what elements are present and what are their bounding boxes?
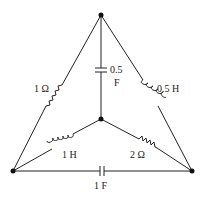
label-capacitor-0.5F-value: 0.5 bbox=[110, 64, 123, 75]
circuit-diagram: 1 Ω 0.5 F 0.5 H 1 H 2 Ω 1 F bbox=[0, 0, 203, 198]
label-inductor-0.5H: 0.5 H bbox=[157, 83, 179, 94]
node-center bbox=[99, 117, 104, 122]
label-capacitor-0.5F-unit: F bbox=[114, 77, 120, 88]
capacitor-0.5F bbox=[95, 15, 107, 119]
node-top bbox=[99, 13, 104, 18]
node-bottom-left bbox=[11, 169, 16, 174]
label-inductor-1H: 1 H bbox=[62, 149, 77, 160]
circuit-wires bbox=[0, 0, 203, 198]
label-resistor-1ohm: 1 Ω bbox=[34, 83, 49, 94]
resistor-1ohm bbox=[13, 15, 101, 171]
node-bottom-right bbox=[190, 169, 195, 174]
label-capacitor-1F: 1 F bbox=[94, 180, 107, 191]
capacitor-1F bbox=[13, 166, 192, 176]
label-resistor-2ohm: 2 Ω bbox=[130, 149, 145, 160]
